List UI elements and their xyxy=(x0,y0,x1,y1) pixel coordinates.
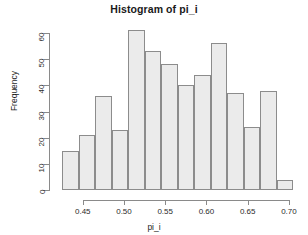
histogram-bar xyxy=(112,130,128,190)
histogram-bar xyxy=(211,43,227,190)
x-axis-tick xyxy=(248,200,249,205)
y-axis-tick-label: 10 xyxy=(38,163,47,172)
histogram-bar xyxy=(227,93,243,190)
histogram-plot: Histogram of pi_i Frequency 010203040506… xyxy=(0,0,308,235)
y-axis-tick-label: 40 xyxy=(38,85,47,94)
histogram-bar xyxy=(277,180,293,190)
x-axis-tick-label: 0.60 xyxy=(186,207,226,216)
x-axis-tick-label: 0.70 xyxy=(269,207,308,216)
histogram-bar xyxy=(244,127,260,190)
y-axis-label: Frequency xyxy=(9,61,19,121)
x-axis-tick xyxy=(206,200,207,205)
y-axis-tick-label: 30 xyxy=(38,111,47,120)
x-axis-tick-label: 0.45 xyxy=(63,207,103,216)
chart-title: Histogram of pi_i xyxy=(0,3,308,15)
histogram-bar xyxy=(260,91,276,190)
x-axis-tick-label: 0.65 xyxy=(228,207,268,216)
y-axis-tick-label: 0 xyxy=(38,190,47,194)
y-axis-tick-label: 20 xyxy=(38,137,47,146)
x-axis-label: pi_i xyxy=(0,222,308,232)
histogram-bar xyxy=(145,51,161,190)
x-axis-tick xyxy=(83,200,84,205)
y-axis-tick-label: 50 xyxy=(38,59,47,68)
x-axis-tick xyxy=(165,200,166,205)
x-axis-tick xyxy=(124,200,125,205)
histogram-bar xyxy=(161,64,177,190)
histogram-bar xyxy=(178,85,194,190)
y-axis-tick-label: 60 xyxy=(38,33,47,42)
x-axis-tick xyxy=(289,200,290,205)
x-axis-tick-label: 0.50 xyxy=(104,207,144,216)
histogram-bar xyxy=(79,135,95,190)
histogram-bar xyxy=(128,30,144,190)
histogram-bar xyxy=(62,151,78,190)
plot-area xyxy=(59,31,292,190)
x-axis-line xyxy=(83,200,289,201)
histogram-bar xyxy=(194,75,210,190)
histogram-bar xyxy=(95,96,111,190)
x-axis-tick-label: 0.55 xyxy=(145,207,185,216)
y-axis-line xyxy=(49,33,50,191)
